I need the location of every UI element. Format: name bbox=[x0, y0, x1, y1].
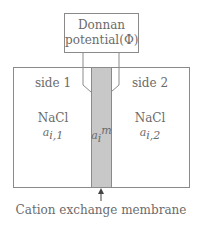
donnan-label-line2: potential(Φ) bbox=[65, 33, 138, 48]
side-2-activity: ai,2 bbox=[125, 125, 175, 142]
donnan-potential-box: Donnan potential(Φ) bbox=[64, 13, 139, 53]
side-1-species: NaCl bbox=[28, 111, 78, 125]
side-2-species: NaCl bbox=[125, 111, 175, 125]
side-2-title: side 2 bbox=[125, 76, 175, 90]
side-1-activity: ai,1 bbox=[28, 125, 78, 142]
membrane-caption: Cation exchange membrane bbox=[0, 203, 202, 217]
side-1-title: side 1 bbox=[28, 76, 78, 90]
membrane-activity: aim bbox=[91, 124, 112, 145]
donnan-label-line1: Donnan bbox=[65, 18, 138, 33]
